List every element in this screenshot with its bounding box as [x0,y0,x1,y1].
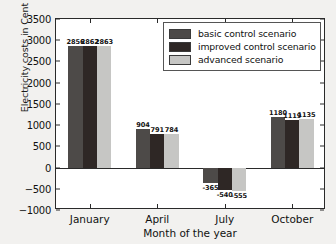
x-axis-tick-mark [157,204,158,208]
bar-value-label: 2863 [95,38,113,46]
x-axis-tick-label: January [70,208,110,225]
bar [83,46,97,167]
y-axis-tick-mark [56,125,60,126]
bar [164,134,178,167]
bar-value-label: 904 [136,121,149,129]
y-axis-tick-mark [56,19,60,20]
y-axis-tick-mark [320,146,324,147]
chart-figure: 285628622863904791784-365-540-5551180111… [0,0,336,244]
y-axis-tick-mark [320,125,324,126]
x-axis-tick-mark [225,204,226,208]
y-axis-tick-label: 3000 [27,35,56,46]
y-axis-tick-label: 500 [33,141,56,152]
zero-line [56,168,324,169]
x-axis-tick-mark [90,204,91,208]
bar [218,168,232,191]
y-axis-tick-label: 0 [45,162,56,173]
bar [150,134,164,168]
bar-value-label: 1135 [298,111,316,119]
y-axis-tick-mark [56,188,60,189]
bar [285,120,299,167]
y-axis-tick-label: 1000 [27,120,56,131]
bar [271,117,285,167]
y-axis-tick-label: 1500 [27,98,56,109]
x-axis-tick-label: October [271,208,313,225]
y-axis-tick-label: 2500 [27,56,56,67]
legend-swatch-basic-control-scenario [169,29,191,39]
bar [232,168,246,192]
x-axis-tick-label: April [145,208,169,225]
y-axis-tick-mark [56,167,60,168]
bar-value-label: 784 [165,126,178,134]
legend-item: basic control scenario [169,27,314,40]
y-axis-tick-mark [320,167,324,168]
y-axis-tick-mark [56,103,60,104]
plot-area: 285628622863904791784-365-540-5551180111… [55,18,325,209]
y-axis-tick-label: −500 [25,183,56,194]
bar [68,46,82,167]
legend-item: advanced scenario [169,53,314,66]
bar-value-label: -555 [231,192,247,200]
x-axis-tick-mark [90,19,91,23]
y-axis-tick-label: −1000 [19,205,56,216]
y-axis-tick-label: 2000 [27,77,56,88]
bar-value-label: 791 [151,126,164,134]
y-axis-tick-mark [56,82,60,83]
legend-label-basic-control-scenario: basic control scenario [198,28,296,39]
y-axis-tick-mark [320,19,324,20]
y-axis-tick-mark [56,61,60,62]
bar [97,46,111,168]
bar [203,168,217,183]
chart-legend: basic control scenario improved control … [163,22,321,71]
y-axis-tick-mark [56,210,60,211]
y-axis-tick-mark [320,103,324,104]
bar [299,119,313,167]
y-axis-tick-mark [56,146,60,147]
legend-label-improved-control-scenario: improved control scenario [198,41,316,52]
y-axis-tick-mark [320,82,324,83]
y-axis-tick-mark [320,188,324,189]
y-axis-tick-mark [320,210,324,211]
legend-swatch-improved-control-scenario [169,42,191,52]
legend-label-advanced-scenario: advanced scenario [198,54,283,65]
y-axis-tick-label: 3500 [27,14,56,25]
legend-item: improved control scenario [169,40,314,53]
x-axis-title: Month of the year [55,227,325,239]
x-axis-tick-mark [157,19,158,23]
bar [136,129,150,167]
legend-swatch-advanced-scenario [169,55,191,65]
x-axis-tick-label: July [215,208,234,225]
x-axis-tick-mark [292,204,293,208]
y-axis-tick-mark [56,40,60,41]
y-axis-title: Electricity costs in Cent [19,0,30,128]
